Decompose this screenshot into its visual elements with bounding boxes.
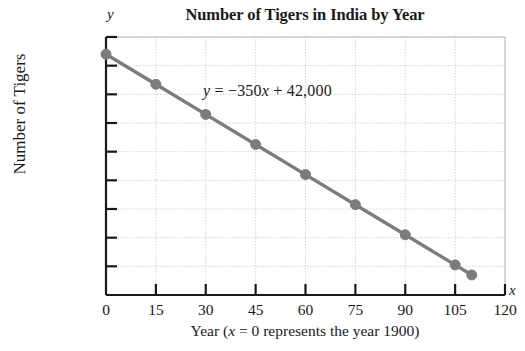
gridlines bbox=[106, 37, 505, 295]
data-point bbox=[251, 140, 261, 150]
plot-area bbox=[0, 0, 525, 351]
data-point bbox=[301, 170, 311, 180]
chart-figure: Number of Tigers in India by Year y x Nu… bbox=[0, 0, 525, 351]
equation-annotation: y = −350x + 42,000 bbox=[203, 82, 332, 100]
data-point bbox=[450, 260, 460, 270]
data-point bbox=[467, 270, 477, 280]
data-point bbox=[201, 109, 211, 119]
data-point bbox=[400, 230, 410, 240]
equation-y-variable: y bbox=[203, 82, 210, 99]
data-point bbox=[350, 200, 360, 210]
data-point bbox=[151, 79, 161, 89]
data-point bbox=[101, 49, 111, 59]
equation-x-variable: x bbox=[262, 82, 269, 99]
